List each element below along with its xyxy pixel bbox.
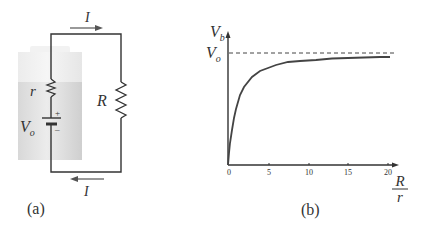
y-axis-label: Vb [210, 23, 225, 43]
svg-text:20: 20 [384, 168, 392, 177]
voltage-curve [228, 57, 390, 165]
x-axis-label: R r [392, 173, 408, 205]
svg-text:I: I [83, 184, 90, 199]
svg-text:r: r [397, 189, 403, 205]
svg-text:15: 15 [344, 168, 352, 177]
caption-b: (b) [301, 201, 320, 219]
current-arrow-bottom: I [70, 176, 104, 199]
asymptote-label: Vo [206, 44, 221, 64]
battery-illustration [18, 46, 82, 160]
load-resistor-symbol [116, 82, 126, 118]
svg-text:0: 0 [227, 168, 231, 177]
x-tick-labels: 0 5 10 15 20 [227, 168, 392, 177]
caption-a: (a) [27, 200, 45, 218]
current-arrow-top: I [70, 10, 103, 31]
plus-sign: + [55, 108, 60, 118]
svg-text:R: R [394, 173, 404, 189]
svg-text:5: 5 [267, 168, 271, 177]
internal-resistor-label: r [30, 83, 36, 99]
svg-text:I: I [84, 10, 91, 25]
svg-text:10: 10 [305, 168, 313, 177]
minus-sign: – [54, 124, 60, 134]
figure: r + – Vo R I I (a) [0, 0, 427, 226]
circuit-diagram: r + – Vo R I I (a) [18, 10, 126, 218]
voltage-plot: 0 5 10 15 20 Vb Vo R r (b) [206, 23, 408, 219]
load-resistor-label: R [96, 92, 107, 109]
